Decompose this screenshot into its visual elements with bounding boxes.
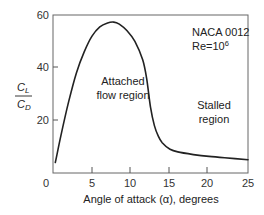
x-tick-label-25: 25: [242, 177, 254, 189]
annotation-stalled-line2: region: [199, 113, 230, 125]
x-axis-label: Angle of attack (α), degrees: [83, 193, 219, 205]
y-tick-label-20: 20: [37, 114, 49, 126]
x-tick-label-5: 5: [89, 177, 95, 189]
chart-canvas: 60 40 20 CL CD 0 5 10 15 20 25 Angle of …: [0, 0, 264, 215]
y-axis: 60 40 20: [37, 9, 58, 126]
annotation-airfoil: NACA 0012: [192, 26, 249, 38]
plot-frame: [53, 15, 248, 173]
annotation-attached-line1: Attached: [101, 75, 144, 87]
annotation-reynolds: Re=106: [192, 39, 229, 52]
annotation-attached-line2: flow region: [96, 89, 149, 101]
y-tick-label-40: 40: [37, 61, 49, 73]
y-tick-label-60: 60: [37, 9, 49, 21]
y-label-denominator: CD: [17, 98, 31, 112]
y-axis-label: CL CD: [15, 81, 32, 112]
x-tick-label-15: 15: [163, 177, 175, 189]
y-label-numerator: CL: [17, 81, 29, 95]
x-tick-label-20: 20: [201, 177, 213, 189]
annotation-stalled-line1: Stalled: [197, 99, 231, 111]
x-tick-label-0: 0: [43, 177, 49, 189]
x-tick-label-10: 10: [124, 177, 136, 189]
